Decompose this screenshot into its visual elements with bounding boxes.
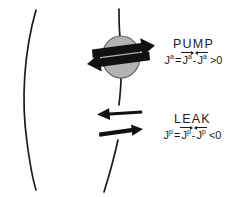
leak-zero-value: 0 bbox=[215, 129, 221, 141]
pump-equals-sign: = bbox=[174, 54, 182, 66]
pump-backward-flux-symbol: Ja bbox=[197, 54, 206, 67]
right-membrane-leaflet-upper bbox=[119, 9, 120, 37]
leak-heading: LEAK bbox=[150, 113, 235, 126]
pump-relation-sign: > bbox=[207, 54, 216, 66]
leak-formula: Jp=Jp-Jp<0 bbox=[150, 129, 235, 142]
membrane-transport-diagram bbox=[0, 0, 235, 197]
pump-zero-value: 0 bbox=[216, 54, 222, 66]
pump-label-block: PUMP Ja=Ja-Ja>0 bbox=[152, 38, 235, 67]
leak-label-block: LEAK Jp=Jp-Jp<0 bbox=[150, 113, 235, 142]
figure-background bbox=[0, 0, 235, 197]
pump-forward-flux-symbol: Ja bbox=[182, 54, 191, 67]
leak-backward-flux-symbol: Jp bbox=[196, 129, 205, 142]
leak-net-flux-symbol: Jp bbox=[164, 130, 173, 142]
leak-equals-sign: = bbox=[173, 129, 181, 141]
leak-forward-flux-symbol: Jp bbox=[181, 129, 190, 142]
pump-net-flux-symbol: Ja bbox=[165, 55, 174, 67]
pump-heading: PUMP bbox=[152, 38, 235, 51]
leak-relation-sign: < bbox=[206, 129, 215, 141]
pump-formula: Ja=Ja-Ja>0 bbox=[152, 54, 235, 67]
